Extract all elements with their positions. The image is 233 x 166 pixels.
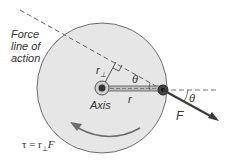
axis-label: Axis: [90, 99, 111, 111]
r-label: r: [128, 93, 132, 105]
force-arrowhead-icon: [208, 112, 219, 121]
theta-arc-2: [184, 90, 188, 101]
torque-equation: τ = r⊥F: [22, 138, 55, 155]
force-label: F: [176, 110, 183, 122]
theta-label-1: θ: [132, 73, 138, 85]
theta-label-2: θ: [189, 92, 195, 104]
r-perp-label: r⊥: [96, 64, 106, 81]
force-line-label: Force line of action: [11, 28, 40, 64]
